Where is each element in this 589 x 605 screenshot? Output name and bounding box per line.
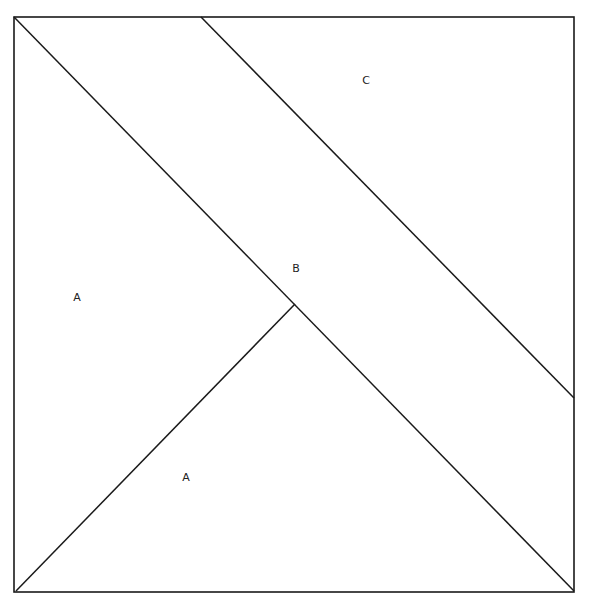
- lower-left-segment: [16, 304, 295, 591]
- label-c: C: [362, 74, 370, 87]
- parallel-strip-line: [201, 17, 574, 398]
- square-dissection-diagram: [0, 0, 589, 605]
- label-a-bottom: A: [182, 471, 190, 484]
- label-b: B: [292, 262, 300, 275]
- label-a-left: A: [73, 291, 81, 304]
